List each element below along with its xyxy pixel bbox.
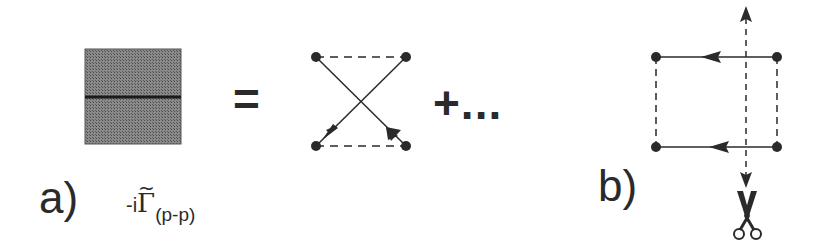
vertex-dot: [772, 142, 782, 152]
panel-label-b: b): [598, 164, 637, 208]
vertex-subscript: (p-p): [155, 204, 195, 225]
crossed-ladder-diagram: [311, 52, 411, 151]
vertex-dot: [311, 52, 321, 62]
vertex-prefix: -i: [126, 194, 137, 216]
equals-sign: =: [233, 76, 260, 122]
vertex-dot: [651, 142, 661, 152]
box-diagram: [651, 51, 782, 153]
vertex-box: [85, 49, 181, 144]
arrow-left-icon: [709, 141, 729, 153]
tilde-accent: ~: [138, 176, 155, 200]
vertex-dot: [401, 141, 411, 151]
cut-line: [740, 6, 752, 188]
gamma-symbol: ~Γ: [137, 188, 155, 218]
panel-label-a: a): [39, 176, 78, 220]
scissors-icon: [734, 191, 761, 239]
vertex-dot: [651, 52, 661, 62]
vertex-dot: [401, 52, 411, 62]
vertex-symbol: -i~Γ(p-p): [126, 188, 195, 226]
continuation-plus: +...: [433, 80, 502, 126]
vertex-dot: [772, 52, 782, 62]
diagram-canvas: [0, 0, 826, 250]
arrow-left-icon: [701, 51, 721, 63]
vertex-dot: [311, 141, 321, 151]
